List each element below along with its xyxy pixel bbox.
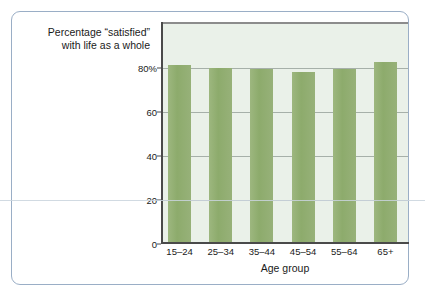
gridline-40 bbox=[161, 156, 408, 157]
bar-45–54 bbox=[292, 72, 315, 243]
gridline-80 bbox=[161, 68, 408, 69]
scan-artifact-line bbox=[0, 200, 425, 201]
x-tick-label-35–44: 35–44 bbox=[249, 246, 275, 257]
x-axis-title: Age group bbox=[161, 262, 409, 274]
chart-plot-area: 020406080% bbox=[161, 22, 408, 242]
y-tick-label-60: 60 bbox=[146, 107, 157, 118]
plot-inner: 020406080% bbox=[161, 24, 408, 242]
x-tick-label-45–54: 45–54 bbox=[290, 246, 316, 257]
x-axis-tick-labels: 15–2425–3435–4445–5455–6465+ bbox=[161, 246, 409, 260]
bar-55–64 bbox=[333, 69, 356, 242]
caption-line-1: Percentage “satisfied” bbox=[10, 26, 150, 39]
bar-35–44 bbox=[250, 69, 273, 242]
x-tick-label-65+: 65+ bbox=[377, 246, 393, 257]
bar-65+ bbox=[374, 62, 397, 242]
y-tick-label-40: 40 bbox=[146, 151, 157, 162]
x-tick-label-25–34: 25–34 bbox=[208, 246, 234, 257]
x-axis-line bbox=[161, 242, 409, 244]
bar-25–34 bbox=[209, 68, 232, 242]
y-tick-mark-0 bbox=[157, 244, 161, 245]
caption-line-2: with life as a whole bbox=[10, 39, 150, 52]
y-axis-line bbox=[161, 22, 163, 243]
bar-15–24 bbox=[168, 65, 191, 242]
chart-caption: Percentage “satisfied” with life as a wh… bbox=[10, 26, 150, 52]
x-tick-label-55–64: 55–64 bbox=[331, 246, 357, 257]
y-tick-label-80: 80% bbox=[138, 63, 157, 74]
gridline-60 bbox=[161, 112, 408, 113]
x-tick-label-15–24: 15–24 bbox=[166, 246, 192, 257]
